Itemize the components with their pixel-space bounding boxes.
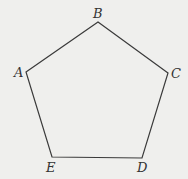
vertex-label-c: C (171, 66, 181, 81)
vertex-label-b: B (92, 6, 103, 21)
vertex-label-d: D (136, 160, 148, 175)
vertex-label-a: A (13, 65, 23, 80)
pentagon-shape (26, 22, 168, 158)
pentagon-diagram: A B C D E (0, 0, 188, 179)
vertex-label-e: E (45, 160, 56, 175)
